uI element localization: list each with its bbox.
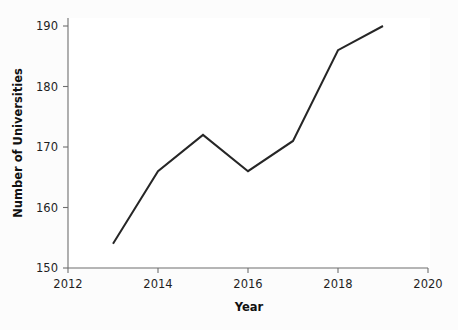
- x-tick-label: 2020: [413, 277, 442, 291]
- chart-figure: 150160170180190 20122014201620182020 Yea…: [0, 0, 458, 330]
- x-tick-label: 2016: [233, 277, 262, 291]
- y-tick-label: 190: [36, 19, 58, 33]
- y-tick-label: 150: [36, 261, 58, 275]
- x-axis-title: Year: [234, 300, 264, 314]
- line-chart-canvas: 150160170180190 20122014201620182020 Yea…: [0, 0, 458, 330]
- y-tick-label: 170: [36, 140, 58, 154]
- x-tick-label: 2012: [53, 277, 82, 291]
- y-tick-label: 180: [36, 80, 58, 94]
- x-tick-label: 2014: [143, 277, 172, 291]
- x-tick-label: 2018: [323, 277, 352, 291]
- y-tick-label: 160: [36, 201, 58, 215]
- y-axis-title: Number of Universities: [11, 68, 25, 218]
